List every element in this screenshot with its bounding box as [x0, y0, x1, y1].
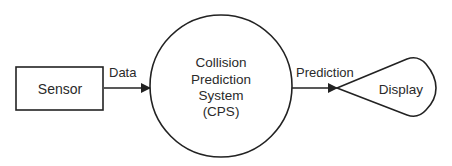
display-label: Display: [379, 82, 424, 97]
cps-node: Collision Prediction System (CPS): [150, 15, 292, 157]
cps-label-line-4: (CPS): [203, 104, 240, 119]
sensor-label: Sensor: [38, 81, 83, 97]
data-edge-label: Data: [109, 65, 137, 80]
cps-label-line-2: Prediction: [191, 72, 251, 87]
data-edge: Data: [104, 65, 150, 88]
prediction-edge-label: Prediction: [296, 65, 354, 80]
data-flow-diagram: Sensor Data Collision Prediction System …: [0, 0, 452, 166]
cps-label-line-1: Collision: [195, 55, 246, 70]
cps-label-line-3: System: [198, 88, 243, 103]
sensor-node: Sensor: [16, 67, 103, 110]
